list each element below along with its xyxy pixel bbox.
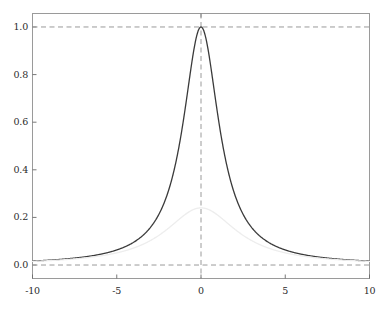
reference-lines-group [33,14,370,279]
y-tick-label-1: 0.2 [0,212,28,221]
y-tick-label-4: 0.8 [0,70,28,79]
plot-canvas [0,0,386,309]
x-tick-label-4: 10 [353,286,386,295]
y-tick-label-3: 0.6 [0,117,28,126]
y-tick-label-2: 0.4 [0,165,28,174]
chart-figure: 0.00.20.40.60.81.0 -10-50510 [0,0,386,309]
y-tick-label-0: 0.0 [0,260,28,269]
x-tick-label-2: 0 [184,286,218,295]
x-tick-label-0: -10 [16,286,50,295]
y-tick-label-5: 1.0 [0,22,28,31]
x-tick-label-3: 5 [268,286,302,295]
x-tick-label-1: -5 [100,286,134,295]
